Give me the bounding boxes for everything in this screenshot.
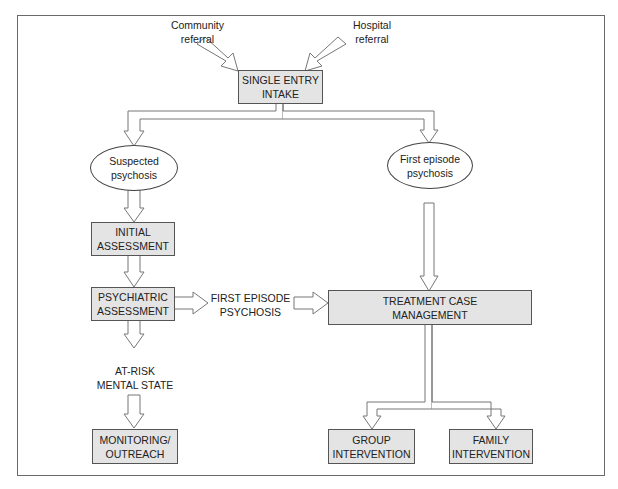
hospital-referral-label: Hospital referral <box>342 18 402 46</box>
arrow-psychiatric-label <box>173 292 208 314</box>
arrow-psychiatric-atrisk <box>124 320 144 348</box>
suspected-psychosis-node: Suspected psychosis <box>90 145 178 191</box>
branch-family-arrow <box>432 325 505 429</box>
arrow-firstepisode-treatment <box>420 203 438 291</box>
hospital-referral-arrow <box>305 37 346 71</box>
arrow-atrisk-monitoring <box>124 395 144 428</box>
arrow-label-treatment <box>294 292 328 314</box>
arrow-initial-psychiatric <box>124 255 144 287</box>
at-risk-mental-state-label: AT-RISK MENTAL STATE <box>90 364 180 392</box>
community-referral-label: Community referral <box>160 18 235 46</box>
first-episode-psychosis-label: FIRST EPISODE PSYCHOSIS <box>208 291 293 319</box>
arrow-suspected-initial <box>124 190 144 222</box>
branch-left-arrow <box>124 103 283 146</box>
first-episode-psychosis-node: First episode psychosis <box>387 142 473 189</box>
initial-assessment-box: INITIAL ASSESSMENT <box>91 222 175 256</box>
branch-right-arrow <box>283 103 438 143</box>
single-entry-intake-box: SINGLE ENTRY INTAKE <box>238 70 323 104</box>
family-intervention-box: FAMILY INTERVENTION <box>449 429 533 464</box>
group-intervention-box: GROUP INTERVENTION <box>328 429 415 464</box>
treatment-case-management-box: TREATMENT CASE MANAGEMENT <box>328 290 532 325</box>
monitoring-outreach-box: MONITORING/ OUTREACH <box>92 429 178 464</box>
branch-group-arrow <box>363 325 432 429</box>
psychiatric-assessment-box: PSYCHIATRIC ASSESSMENT <box>91 287 175 321</box>
